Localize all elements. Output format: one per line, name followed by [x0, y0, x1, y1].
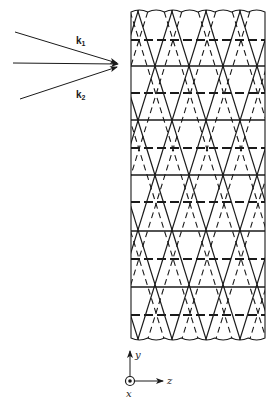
dashed-diagonal [247, 0, 278, 340]
wave-vector-k2-arrow [20, 67, 117, 99]
solid-diagonal [0, 0, 81, 366]
dashed-diagonal [250, 0, 278, 340]
z-axis-label: z [166, 375, 173, 386]
solid-diagonal [28, 0, 184, 366]
solid-diagonal [0, 0, 13, 366]
k1-label: k1 [76, 35, 86, 47]
dashed-diagonal [0, 0, 31, 340]
solid-diagonal [62, 0, 218, 366]
dashed-diagonal [111, 0, 267, 340]
solid-diagonal [0, 0, 44, 366]
solid-diagonal [198, 0, 278, 366]
solid-diagonal [266, 0, 278, 366]
dashed-diagonal [0, 0, 130, 340]
solid-diagonal [0, 0, 115, 366]
dashed-diagonal [0, 0, 99, 340]
coordinate-axes: y z x [126, 349, 174, 399]
x-axis-label: x [126, 388, 132, 399]
solid-diagonal [0, 0, 146, 366]
dashed-diagonal [46, 0, 202, 340]
solid-diagonal [0, 0, 149, 366]
dashed-diagonal [114, 0, 270, 340]
solid-diagonal [0, 0, 112, 366]
dashed-diagonal [0, 0, 62, 340]
dashed-diagonal [0, 0, 96, 340]
dashed-diagonal [77, 0, 233, 340]
solid-diagonal [164, 0, 278, 366]
solid-diagonal [0, 0, 78, 366]
dashed-diagonal [0, 0, 28, 340]
grating-slab [0, 0, 278, 366]
dashed-diagonal [80, 0, 236, 340]
y-axis-label: y [134, 349, 141, 360]
dashed-diagonal [182, 0, 278, 340]
dashed-diagonal [0, 0, 133, 340]
wave-vector-center-arrow [13, 63, 118, 64]
wave-vector-k1-arrow [15, 32, 117, 63]
dashed-diagonal [12, 0, 168, 340]
dashed-diagonal [213, 0, 278, 340]
k2-label: k2 [76, 89, 86, 101]
grating-diagram: k1 k2 y z x [0, 0, 278, 412]
dashed-diagonal [43, 0, 199, 340]
wave-vectors [13, 32, 118, 99]
dashed-diagonal [9, 0, 165, 340]
solid-diagonal [0, 0, 47, 366]
dashed-diagonal [0, 0, 65, 340]
solid-diagonal [96, 0, 252, 366]
